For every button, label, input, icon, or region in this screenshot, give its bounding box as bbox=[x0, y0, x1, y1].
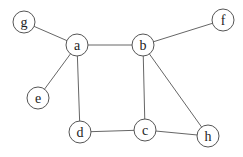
node-label: g bbox=[21, 15, 28, 30]
node-label: c bbox=[142, 123, 148, 138]
graph-diagram: gabfedch bbox=[0, 0, 243, 157]
node-f: f bbox=[212, 9, 234, 31]
node-d: d bbox=[69, 121, 91, 143]
node-label: b bbox=[140, 38, 147, 53]
edge-a-d bbox=[77, 45, 80, 132]
edge-b-c bbox=[143, 45, 145, 130]
node-h: h bbox=[197, 125, 219, 147]
node-c: c bbox=[134, 119, 156, 141]
node-a: a bbox=[66, 34, 88, 56]
node-e: e bbox=[27, 87, 49, 109]
node-label: d bbox=[77, 125, 84, 140]
node-label: e bbox=[35, 91, 41, 106]
node-b: b bbox=[132, 34, 154, 56]
node-label: a bbox=[74, 38, 81, 53]
edge-b-f bbox=[143, 20, 223, 45]
edges bbox=[24, 20, 223, 136]
node-label: h bbox=[205, 129, 212, 144]
node-g: g bbox=[13, 11, 35, 33]
node-label: f bbox=[221, 13, 226, 28]
